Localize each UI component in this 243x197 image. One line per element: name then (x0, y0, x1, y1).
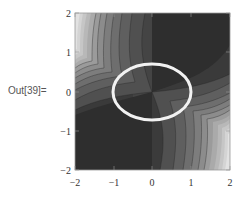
x-tick-label: −2 (70, 177, 81, 188)
contour-bands (75, 13, 230, 170)
y-tick-label: 1 (66, 47, 71, 58)
x-tick-label: −1 (109, 177, 120, 188)
x-tick-label: 1 (189, 177, 194, 188)
y-tick-label: 2 (66, 8, 71, 19)
x-tick-label: 0 (150, 177, 155, 188)
y-tick-label: −1 (60, 126, 71, 137)
y-tick-label: 0 (66, 87, 71, 98)
x-tick-label: 2 (228, 177, 233, 188)
y-tick-label: −2 (60, 165, 71, 176)
contour-plot: −2 −1 0 1 2 2 1 0 −1 −2 (0, 0, 243, 197)
